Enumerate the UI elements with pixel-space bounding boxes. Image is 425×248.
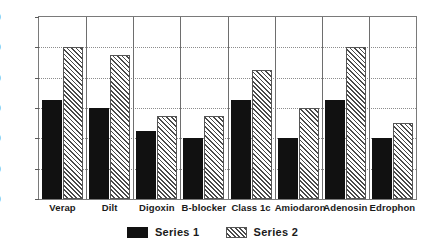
group-separator (322, 17, 323, 199)
x-tick-label-adenosin: Adenosin (322, 203, 369, 213)
legend-item-series-1[interactable]: Series 1 (127, 227, 200, 238)
bar-dilt-series-2 (110, 55, 130, 199)
x-tick-label-b-blocker: B-blocker (180, 203, 227, 213)
bar-b-blocker-series-2 (204, 116, 224, 199)
y-tick-mark-60 (35, 108, 39, 109)
y-tick-label-0: 0 (0, 194, 1, 205)
bar-verap-series-2 (63, 47, 83, 199)
legend-label-series-1: Series 1 (155, 227, 200, 238)
group-separator (86, 17, 87, 199)
group-separator (275, 17, 276, 199)
group-separator (133, 17, 134, 199)
plot-area (38, 16, 417, 200)
bar-b-blocker-series-1 (183, 138, 203, 199)
y-tick-mark-0 (35, 199, 39, 200)
chart-legend: Series 1Series 2 (0, 227, 425, 238)
group-separator (369, 17, 370, 199)
bar-chart: 120100806040200 VerapDiltDigoxinB-blocke… (0, 0, 425, 248)
bar-amiodaron-series-1 (278, 138, 298, 199)
bar-adenosin-series-2 (346, 47, 366, 199)
x-tick-label-amiodaron: Amiodaron (275, 203, 322, 213)
x-tick-label-edrophon: Edrophon (369, 203, 416, 213)
group-separator (228, 17, 229, 199)
x-tick-label-verap: Verap (39, 203, 86, 213)
y-tick-mark-40 (35, 138, 39, 139)
legend-label-series-2: Series 2 (254, 227, 299, 238)
bar-edrophon-series-1 (372, 138, 392, 199)
bar-amiodaron-series-2 (299, 108, 319, 199)
y-tick-label-80: 80 (0, 73, 1, 84)
y-tick-mark-120 (35, 17, 39, 18)
legend-swatch-icon-series-1 (127, 227, 148, 238)
x-tick-label-class-1c: Class 1c (228, 203, 275, 213)
bar-dilt-series-1 (89, 108, 109, 199)
bar-class-1c-series-1 (231, 100, 251, 199)
x-tick-label-digoxin: Digoxin (133, 203, 180, 213)
y-tick-label-40: 40 (0, 133, 1, 144)
bar-digoxin-series-1 (136, 131, 156, 199)
legend-swatch-icon-series-2 (226, 227, 247, 238)
bar-class-1c-series-2 (252, 70, 272, 199)
legend-item-series-2[interactable]: Series 2 (226, 227, 299, 238)
bar-verap-series-1 (42, 100, 62, 199)
y-tick-label-60: 60 (0, 103, 1, 114)
bar-edrophon-series-2 (393, 123, 413, 199)
y-tick-mark-100 (35, 47, 39, 48)
y-tick-label-120: 120 (0, 12, 1, 23)
bar-digoxin-series-2 (157, 116, 177, 199)
y-tick-mark-80 (35, 78, 39, 79)
y-tick-mark-20 (35, 169, 39, 170)
group-separator (180, 17, 181, 199)
y-tick-label-100: 100 (0, 42, 1, 53)
bar-adenosin-series-1 (325, 100, 345, 199)
y-tick-label-20: 20 (0, 164, 1, 175)
x-tick-label-dilt: Dilt (86, 203, 133, 213)
